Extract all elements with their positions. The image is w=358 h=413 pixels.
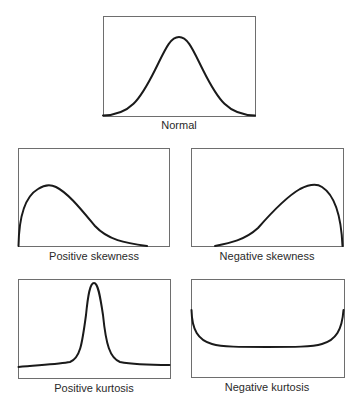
panel-label-positive-skewness: Positive skewness <box>49 250 139 262</box>
panel-label-negative-kurtosis: Negative kurtosis <box>225 381 310 393</box>
panel-normal: Normal <box>103 17 256 132</box>
cutoff-caption <box>40 407 350 413</box>
panel-frame <box>192 149 344 247</box>
panel-frame <box>19 149 170 247</box>
panel-negative-skewness: Negative skewness <box>192 149 344 263</box>
panel-label-normal: Normal <box>161 119 196 131</box>
panel-positive-kurtosis: Positive kurtosis <box>19 280 171 395</box>
distribution-shapes-diagram: Normal Positive skewness Negative skewne… <box>0 0 358 413</box>
panel-frame <box>192 280 345 378</box>
panel-label-negative-skewness: Negative skewness <box>220 250 315 262</box>
panel-positive-skewness: Positive skewness <box>19 149 170 263</box>
panel-negative-kurtosis: Negative kurtosis <box>192 280 345 394</box>
panel-frame <box>104 17 256 117</box>
panel-label-positive-kurtosis: Positive kurtosis <box>54 382 134 394</box>
